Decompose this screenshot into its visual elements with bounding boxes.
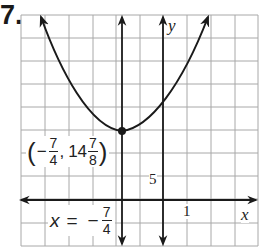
y-tick-5-label: 5 (149, 172, 157, 187)
x-axis-label: x (241, 206, 249, 223)
vertex-x-sign: − (37, 143, 47, 160)
vertex-point (118, 127, 126, 135)
vertex-y-whole: 14 (68, 143, 87, 160)
vertex-close-paren: ) (99, 139, 108, 165)
vertex-x-fraction: 7 4 (49, 136, 59, 167)
parabola-curve (41, 17, 208, 131)
vertex-label: ( − 7 4 , 14 7 8 ) (26, 136, 109, 167)
vertex-y-fraction: 7 8 (88, 136, 98, 167)
vertex-comma: , (59, 143, 64, 160)
axis-eq-fraction: 7 4 (102, 205, 112, 236)
vertex-open-paren: ( (27, 139, 36, 165)
axis-eq-sign: − (88, 211, 99, 230)
x-tick-1-label: 1 (183, 204, 191, 219)
axis-eq-equals: = (67, 211, 78, 230)
axis-of-symmetry-label: x = − 7 4 (48, 205, 115, 236)
axis-eq-var: x (50, 211, 60, 230)
parabola-graph (0, 0, 262, 249)
y-axis-label: y (168, 17, 176, 34)
